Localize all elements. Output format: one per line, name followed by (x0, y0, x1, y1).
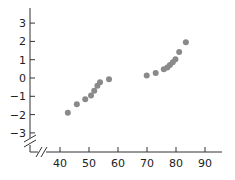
y-tick-label: 0 (19, 72, 26, 85)
x-tick-label: 80 (169, 157, 183, 170)
y-tick-label: 2 (19, 35, 26, 48)
x-tick-label: 50 (82, 157, 96, 170)
x-tick-label: 40 (53, 157, 67, 170)
data-point (97, 79, 103, 85)
data-point (65, 110, 71, 116)
x-tick-label: 70 (140, 157, 154, 170)
x-tick-label: 90 (198, 157, 212, 170)
data-point (82, 96, 88, 102)
data-point (153, 70, 159, 76)
y-tick-label: −1 (10, 90, 26, 103)
data-point (106, 76, 112, 82)
data-point (144, 73, 150, 79)
x-tick-label: 60 (111, 157, 125, 170)
data-point (176, 49, 182, 55)
y-tick-label: −3 (10, 127, 26, 140)
y-tick-label: 3 (19, 17, 26, 30)
y-tick-label: −2 (10, 109, 26, 122)
data-point (172, 56, 178, 62)
data-points (65, 39, 189, 115)
y-axis: 3210−1−2−3 (10, 8, 35, 152)
x-axis: 405060708090 (30, 147, 222, 170)
data-point (91, 88, 97, 94)
y-tick-label: 1 (19, 54, 26, 67)
data-point (183, 39, 189, 45)
axis-breaks (24, 135, 47, 157)
data-point (74, 101, 80, 107)
scatter-chart: 3210−1−2−3 405060708090 (0, 0, 235, 180)
